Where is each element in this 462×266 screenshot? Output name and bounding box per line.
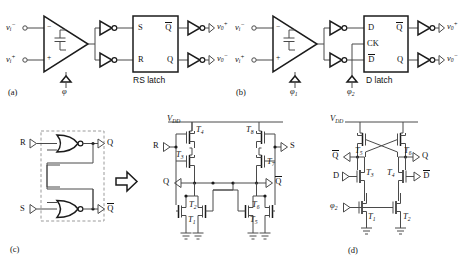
- panel-c-output-q: Q: [107, 138, 113, 147]
- panel-b-latch-caption: D latch: [366, 76, 392, 85]
- panel-a-latch-pin-s: S: [138, 23, 143, 32]
- panel-c-schematic-input-s: S: [290, 141, 295, 150]
- panel-a-amp-plus-terminal: +: [47, 54, 51, 62]
- panel-b-output-vo-plus: v0+: [447, 21, 458, 32]
- panel-a-linework: [23, 16, 215, 88]
- panel-c-supply-vdd: VDD: [167, 114, 180, 124]
- panel-b-latch-pin-qbar: Q: [396, 22, 403, 32]
- panel-d-input-d: D: [333, 171, 339, 180]
- panel-c-transistor-t4: T4: [196, 125, 204, 135]
- panel-b-latch-pin-d: D: [368, 23, 374, 32]
- panel-b-clock-phi2: φ2: [347, 87, 355, 97]
- panel-a-amp-minus-terminal: −: [47, 23, 51, 31]
- panel-c-transistor-t5: T5: [250, 215, 258, 225]
- panel-d-clock-phi2: φ2: [330, 201, 338, 211]
- panel-a-latch-pin-r: R: [138, 55, 144, 64]
- panel-b-latch-pin-q: Q: [397, 55, 403, 64]
- panel-c-transistor-t2: T2: [189, 200, 197, 210]
- panel-a-latch-pin-q: Q: [167, 55, 173, 64]
- panel-a-output-vo-minus: v0−: [217, 53, 228, 64]
- panel-c-transistor-t3: T3: [176, 150, 184, 160]
- panel-b-latch-pin-ck: CK: [367, 39, 379, 48]
- panel-d-transistor-t3: T3: [366, 168, 374, 178]
- panel-b-input-vi-minus: vi−: [235, 22, 245, 33]
- panel-d-transistor-t2: T2: [403, 212, 411, 222]
- panel-b-linework: [252, 16, 445, 88]
- panel-c-transistor-t6: T6: [252, 200, 260, 210]
- panel-c-schematic-linework: [164, 122, 288, 239]
- panel-c-output-qbar: Q: [107, 203, 114, 213]
- figure-canvas: .w{stroke:#4a4a4a;stroke-width:1;fill:no…: [0, 0, 462, 266]
- panel-c-transistor-t7: T7: [267, 157, 275, 167]
- panel-a-input-vi-plus: vi+: [6, 54, 16, 65]
- panel-d-node-q: Q: [422, 151, 428, 160]
- panel-c-schematic-node-qbar: Q: [275, 176, 282, 186]
- panel-c-tag: (c): [10, 245, 19, 254]
- circuit-linework: .w{stroke:#4a4a4a;stroke-width:1;fill:no…: [0, 0, 462, 266]
- panel-a-tag: (a): [8, 88, 17, 97]
- panel-b-amp-plus-terminal: +: [276, 54, 280, 62]
- panel-a-output-vo-plus: v0+: [217, 21, 228, 32]
- panel-c-gate-linework: [30, 131, 137, 221]
- panel-a-input-vi-minus: vi−: [6, 22, 16, 33]
- panel-a-clock-phi: φ: [62, 87, 67, 96]
- panel-d-transistor-t1: T1: [368, 212, 376, 222]
- panel-b-input-vi-plus: vi+: [235, 54, 245, 65]
- panel-d-transistor-t6: T6: [404, 146, 412, 156]
- panel-d-transistor-t5: T5: [355, 146, 363, 156]
- panel-a-latch-caption: RS latch: [133, 76, 165, 85]
- panel-c-schematic-node-q: Q: [163, 177, 169, 186]
- panel-d-supply-vdd: VDD: [330, 114, 343, 124]
- panel-d-tag: (d): [348, 246, 358, 255]
- panel-d-node-qbar: Q: [332, 150, 339, 160]
- panel-c-input-s: S: [20, 204, 25, 213]
- panel-d-input-dbar: D: [423, 170, 430, 180]
- panel-a-latch-pin-qbar: Q: [165, 22, 172, 32]
- panel-c-transistor-t8: T8: [246, 125, 254, 135]
- panel-b-output-vo-minus: v0−: [447, 53, 458, 64]
- panel-b-tag: (b): [236, 88, 246, 97]
- panel-b-latch-pin-dbar: D: [368, 54, 375, 64]
- panel-b-clock-phi1: φ1: [290, 87, 298, 97]
- panel-c-input-r: R: [20, 138, 26, 147]
- panel-d-transistor-t4: T4: [387, 168, 395, 178]
- panel-c-transistor-t1: T1: [188, 215, 196, 225]
- panel-c-schematic-input-r: R: [153, 141, 159, 150]
- panel-b-amp-minus-terminal: −: [276, 23, 280, 31]
